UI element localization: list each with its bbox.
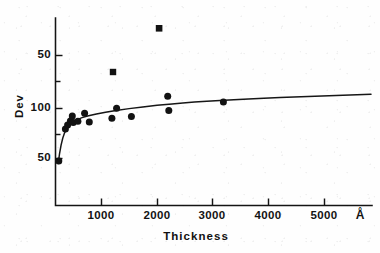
x-axis-ticks bbox=[102, 199, 325, 206]
fitted-curve bbox=[58, 94, 371, 163]
y-tick-label-2: 50 bbox=[29, 152, 51, 164]
y-tick-label-1: 100 bbox=[22, 102, 51, 114]
axis-spines bbox=[56, 18, 373, 206]
data-points-circles bbox=[55, 93, 227, 165]
figure-container: 50 100 50 1000 2000 3000 4000 5000 Å Thi… bbox=[0, 0, 380, 253]
x-axis-title: Thickness bbox=[163, 231, 229, 243]
x-tick-label-2000: 2000 bbox=[143, 210, 170, 222]
data-points-squares bbox=[110, 25, 163, 75]
y-axis-title: Dev bbox=[14, 94, 26, 118]
x-tick-label-1000: 1000 bbox=[87, 210, 114, 222]
x-tick-label-4000: 4000 bbox=[254, 210, 281, 222]
y-tick-label-0: 50 bbox=[29, 49, 51, 61]
x-axis-unit-symbol: Å bbox=[356, 209, 365, 221]
x-tick-label-3000: 3000 bbox=[198, 210, 225, 222]
x-tick-label-5000: 5000 bbox=[310, 210, 337, 222]
